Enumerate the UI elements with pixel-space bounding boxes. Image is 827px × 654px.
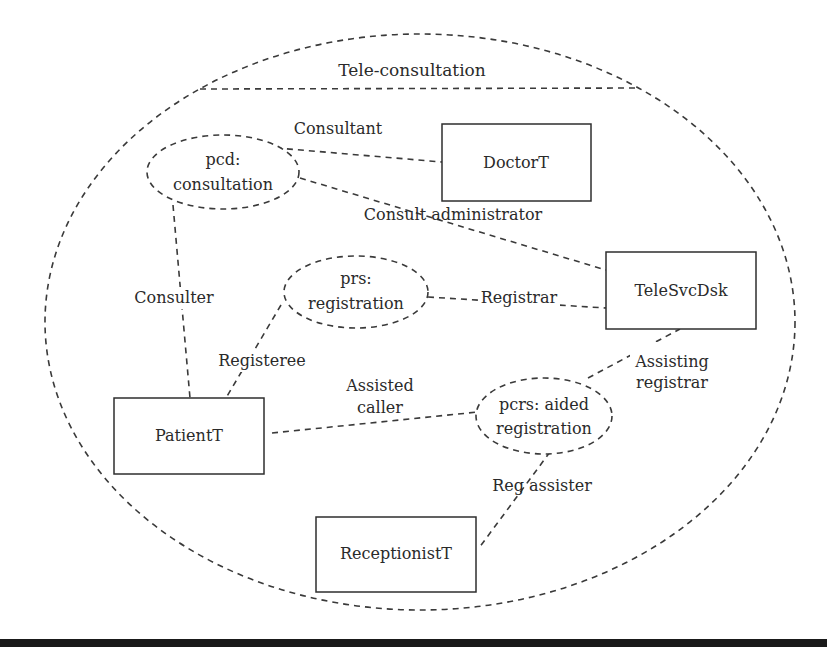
- tele-consultation-diagram: Tele-consultation pcd: consultation prs:…: [0, 0, 827, 654]
- type-doctor[interactable]: DoctorT: [442, 124, 591, 201]
- process-pcrs-label-2: registration: [496, 419, 592, 438]
- type-telesvcdsk[interactable]: TeleSvcDsk: [606, 252, 756, 329]
- process-prs-label-2: registration: [308, 294, 404, 313]
- role-assisted-caller-line2: caller: [357, 398, 403, 417]
- reg-assister-link: [479, 452, 550, 548]
- diagram-title: Tele-consultation: [338, 60, 486, 80]
- process-prs-registration[interactable]: prs: registration: [284, 256, 428, 328]
- role-assisted-caller-line1: Assisted: [345, 376, 413, 395]
- role-assisting-registrar-line1: Assisting: [634, 352, 708, 371]
- type-patient-label: PatientT: [155, 426, 223, 445]
- process-pcd-label-1: pcd:: [206, 150, 241, 169]
- type-receptionist-label: ReceptionistT: [340, 544, 452, 563]
- role-registrar: Registrar: [481, 288, 558, 307]
- role-reg-assister: Reg assister: [492, 476, 592, 495]
- bottom-rule: [0, 639, 827, 647]
- type-doctor-label: DoctorT: [483, 153, 549, 172]
- process-pcd-label-2: consultation: [173, 175, 273, 194]
- type-receptionist[interactable]: ReceptionistT: [316, 517, 476, 592]
- role-registeree: Registeree: [218, 351, 306, 370]
- type-telesvcdsk-label: TeleSvcDsk: [634, 281, 727, 300]
- process-pcrs-aided-registration[interactable]: pcrs: aided registration: [476, 378, 612, 454]
- role-consulter: Consulter: [134, 288, 214, 307]
- process-pcd-consultation[interactable]: pcd: consultation: [147, 135, 299, 209]
- process-pcrs-label-1: pcrs: aided: [499, 395, 589, 414]
- role-consultant: Consultant: [294, 119, 383, 138]
- title-separator: [200, 88, 640, 89]
- role-consult-administrator: Consult administrator: [364, 205, 543, 224]
- type-patient[interactable]: PatientT: [114, 398, 264, 474]
- process-prs-label-1: prs:: [340, 269, 372, 288]
- role-assisting-registrar-line2: registrar: [636, 373, 708, 392]
